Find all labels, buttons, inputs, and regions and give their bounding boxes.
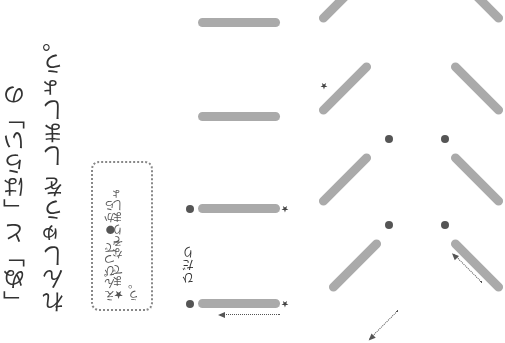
start-dot-icon: [186, 205, 194, 213]
diagonal-stroke-4: [317, 0, 373, 24]
start-dot-icon: [385, 221, 393, 229]
hint-box: えんぴつで ●から ★まで なぞりましょう。: [91, 161, 153, 311]
start-dot-icon: [186, 300, 194, 308]
end-star-icon: ★: [281, 204, 289, 213]
diagonal-stroke-2: [317, 152, 373, 208]
direction-arrow-icon: [369, 310, 398, 339]
horizontal-stroke-3: [198, 112, 280, 121]
diagonal-stroke-5: [449, 238, 505, 294]
direction-label-left: ひだり: [181, 245, 198, 284]
end-star-icon: ★: [281, 299, 289, 308]
start-dot-icon: [385, 135, 393, 143]
hint-line-2: ★まで なぞりましょう。: [111, 163, 143, 301]
direction-arrow-icon: [220, 314, 280, 315]
diagonal-stroke-8: [449, 0, 505, 24]
instruction-line-1: 「ぬ」と「はらい」の: [6, 83, 28, 313]
horizontal-stroke-4: [198, 18, 280, 27]
horizontal-stroke-2: [198, 204, 280, 213]
diagonal-stroke-7: [449, 61, 505, 117]
start-dot-icon: [441, 135, 449, 143]
end-star-icon: ★: [320, 81, 328, 90]
diagonal-stroke-6: [449, 152, 505, 208]
instruction-line-2: れんしゅうを しましょう。: [45, 29, 67, 313]
diagonal-stroke-1: [327, 238, 383, 294]
start-dot-icon: [441, 221, 449, 229]
horizontal-stroke-1: [198, 299, 280, 308]
